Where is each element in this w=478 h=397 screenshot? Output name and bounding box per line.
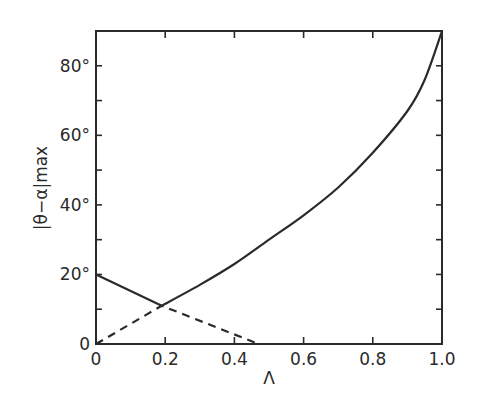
x-tick-label: 0 [91, 349, 102, 369]
x-tick-label: 0.8 [359, 349, 386, 369]
x-tick-label: 1.0 [428, 349, 455, 369]
y-tick-label: 60° [60, 125, 90, 145]
x-tick-label: 0.2 [152, 349, 179, 369]
x-tick-label: 0.6 [290, 349, 317, 369]
x-axis-ticks: 00.20.40.60.81.0 [91, 31, 456, 369]
series-line-solid [96, 31, 442, 306]
chart: 00.20.40.60.81.0 020°40°60°80° Λ |θ−α|ma… [0, 0, 478, 397]
y-tick-label: 40° [60, 195, 90, 215]
plot-border [96, 31, 442, 344]
x-axis-title: Λ [263, 368, 275, 388]
y-axis-ticks: 020°40°60°80° [60, 56, 442, 354]
plot-frame [96, 31, 442, 344]
y-tick-label: 20° [60, 264, 90, 284]
y-tick-label: 0 [79, 334, 90, 354]
y-tick-label: 80° [60, 56, 90, 76]
y-axis-title: |θ−α|max [31, 146, 51, 230]
series-group [96, 31, 442, 344]
x-tick-label: 0.4 [221, 349, 248, 369]
